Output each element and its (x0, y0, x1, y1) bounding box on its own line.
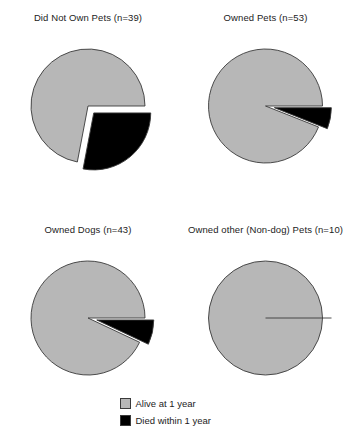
pie-canvas (176, 238, 355, 400)
pie-panel: Did Not Own Pets (n=39) (0, 12, 176, 188)
panel-title: Did Not Own Pets (n=39) (0, 12, 176, 24)
pie-panel: Owned other (Non-dog) Pets (n=10) (176, 224, 355, 400)
pie-canvas (176, 26, 355, 188)
legend-label-died: Died within 1 year (136, 415, 212, 426)
legend-label-alive: Alive at 1 year (136, 398, 196, 409)
pie-slice-died (83, 113, 151, 170)
pie-canvas (0, 26, 176, 188)
pie-slice-alive (208, 49, 322, 163)
pie-slice-alive (31, 261, 145, 375)
pie-canvas (0, 238, 176, 400)
panel-title: Owned other (Non-dog) Pets (n=10) (176, 224, 355, 236)
pie-svg (176, 26, 355, 188)
legend-item-died: Died within 1 year (120, 415, 236, 426)
legend-item-alive: Alive at 1 year (120, 398, 236, 409)
panel-title: Owned Dogs (n=43) (0, 224, 176, 236)
pie-panel: Owned Dogs (n=43) (0, 224, 176, 400)
pie-chart-figure: Did Not Own Pets (n=39) Owned Pets (n=53… (0, 0, 355, 443)
legend-swatch-alive-icon (120, 398, 131, 409)
pie-panel: Owned Pets (n=53) (176, 12, 355, 188)
chart-legend: Alive at 1 year Died within 1 year (0, 398, 355, 426)
panel-title: Owned Pets (n=53) (176, 12, 355, 24)
legend-swatch-died-icon (120, 415, 131, 426)
pie-svg (0, 26, 176, 188)
pie-svg (0, 238, 176, 400)
pie-svg (176, 238, 355, 400)
